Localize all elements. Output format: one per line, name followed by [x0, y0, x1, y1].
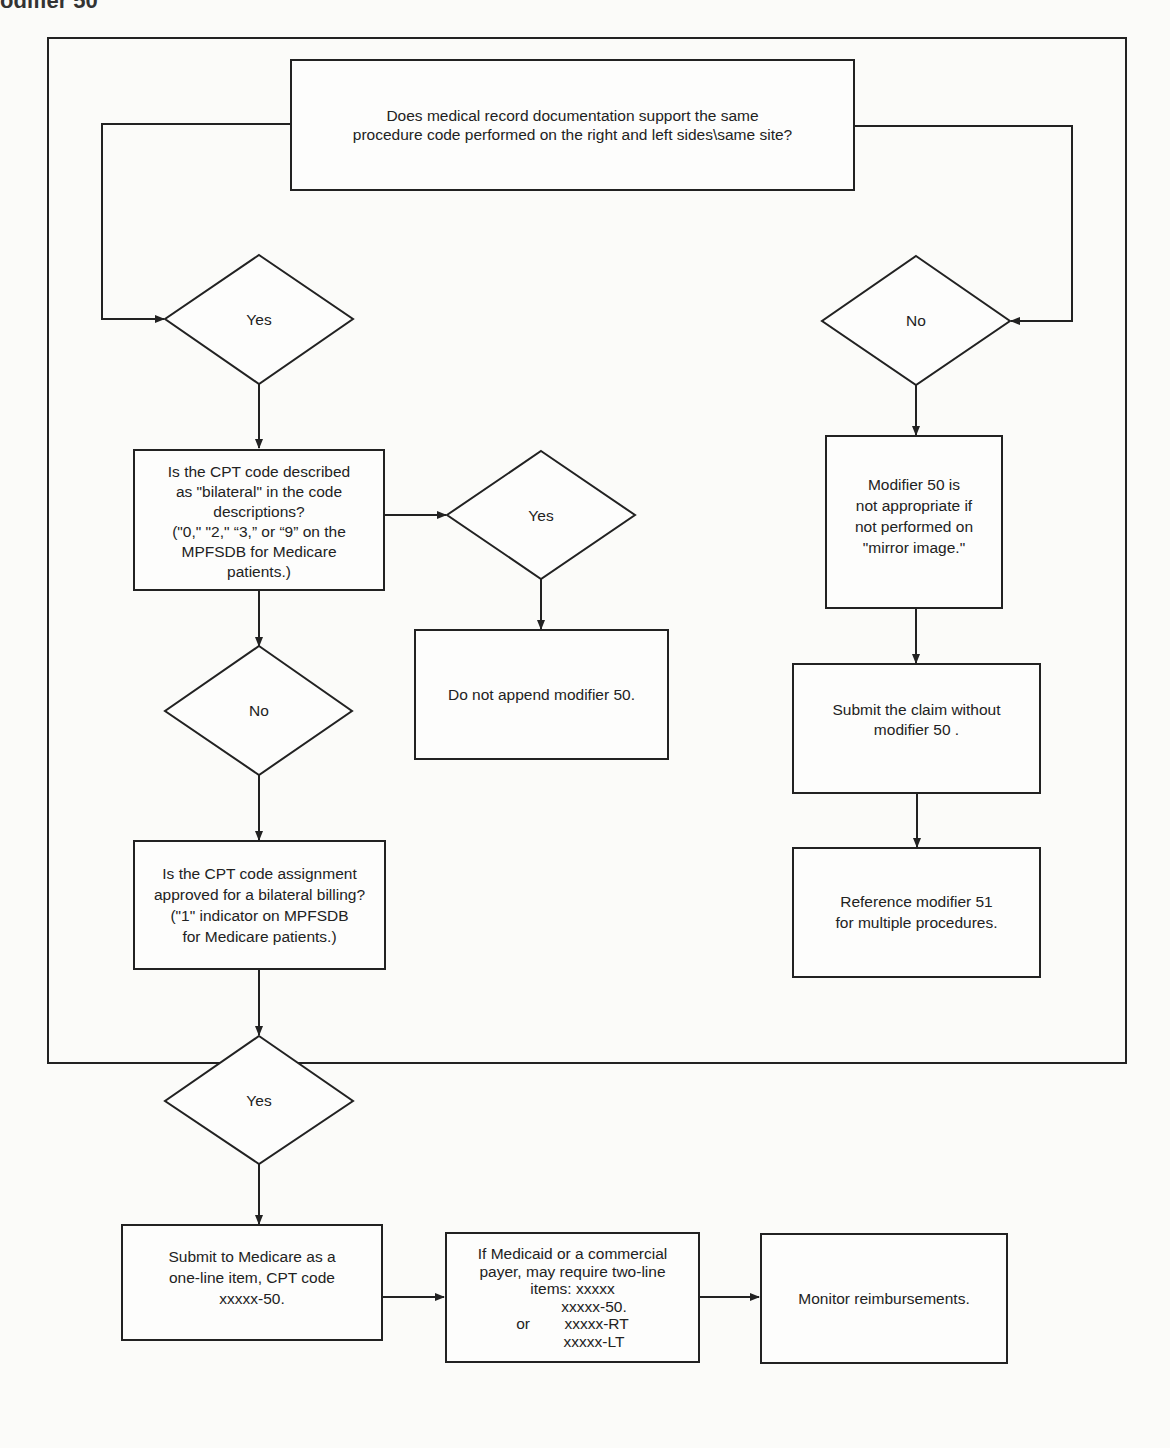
reference-51-text: Reference modifier 51 for multiple proce…	[836, 891, 998, 933]
start-question-box: Does medical record documentation suppor…	[290, 59, 855, 191]
monitor-text: Monitor reimbursements.	[798, 1289, 969, 1308]
bilateral-question-text: Is the CPT code described as "bilateral"…	[168, 462, 350, 582]
start-question-text: Does medical record documentation suppor…	[353, 106, 792, 144]
mirror-image-box: Modifier 50 is not appropriate if not pe…	[825, 435, 1003, 609]
submit-medicare-box: Submit to Medicare as a one-line item, C…	[121, 1224, 383, 1341]
medicaid-commercial-text: If Medicaid or a commercial payer, may r…	[478, 1245, 668, 1350]
monitor-box: Monitor reimbursements.	[760, 1233, 1008, 1364]
approved-question-box: Is the CPT code assignment approved for …	[133, 840, 386, 970]
do-not-append-box: Do not append modifier 50.	[414, 629, 669, 760]
submit-without-text: Submit the claim without modifier 50 .	[833, 700, 1001, 740]
do-not-append-text: Do not append modifier 50.	[448, 685, 635, 704]
reference-51-box: Reference modifier 51 for multiple proce…	[792, 847, 1041, 978]
medicaid-commercial-box: If Medicaid or a commercial payer, may r…	[445, 1232, 700, 1363]
submit-without-box: Submit the claim without modifier 50 .	[792, 663, 1041, 794]
approved-question-text: Is the CPT code assignment approved for …	[154, 863, 365, 947]
bilateral-question-box: Is the CPT code described as "bilateral"…	[133, 449, 385, 591]
decision-start-no-label: No	[906, 312, 926, 330]
decision-start-yes-label: Yes	[246, 311, 271, 329]
decision-bilateral-yes-label: Yes	[528, 507, 553, 525]
decision-approved-yes-label: Yes	[246, 1092, 271, 1110]
page-heading: odifier 50	[0, 0, 98, 14]
decision-bilateral-no-label: No	[249, 702, 269, 720]
submit-medicare-text: Submit to Medicare as a one-line item, C…	[168, 1246, 335, 1309]
mirror-image-text: Modifier 50 is not appropriate if not pe…	[855, 474, 973, 558]
